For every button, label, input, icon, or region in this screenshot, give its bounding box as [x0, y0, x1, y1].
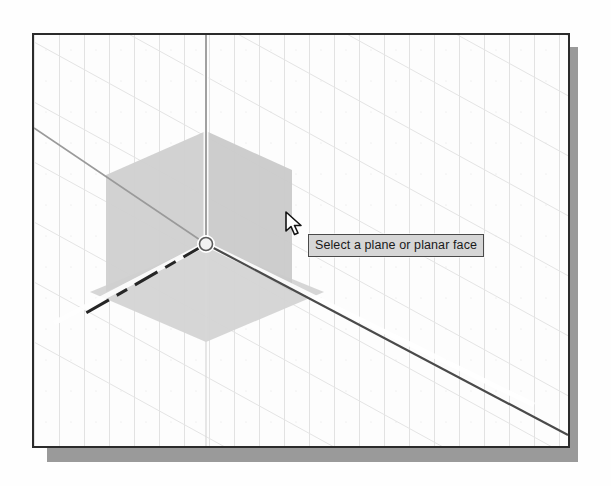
screenshot-root: Select a plane or planar face [0, 0, 611, 486]
ucs-origin-marker[interactable] [199, 237, 214, 252]
plane-selection-tooltip: Select a plane or planar face [308, 234, 484, 257]
drawing-canvas[interactable] [34, 35, 568, 446]
model-space-viewport[interactable]: Select a plane or planar face [32, 33, 570, 448]
